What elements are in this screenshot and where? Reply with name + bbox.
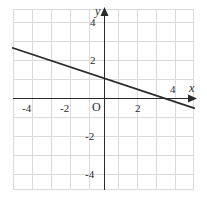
x-tick-label-2: 2: [135, 103, 141, 114]
y-tick-label-minus-2: -2: [85, 131, 94, 142]
y-tick-label-4: 4: [90, 17, 96, 28]
y-tick-label-minus-4: -4: [85, 169, 94, 180]
origin-label: O: [92, 101, 101, 113]
x-tick-label-4: 4: [170, 84, 176, 95]
x-tick-label-minus-2: -2: [60, 103, 69, 114]
x-axis-label: x: [189, 82, 194, 94]
x-tick-label-minus-4: -4: [22, 103, 31, 114]
y-axis-label: y: [95, 5, 100, 17]
coordinate-plane-figure: 4 2 -2 -4 -4 -2 2 4 O y x: [0, 0, 207, 207]
y-tick-label-2: 2: [90, 55, 96, 66]
